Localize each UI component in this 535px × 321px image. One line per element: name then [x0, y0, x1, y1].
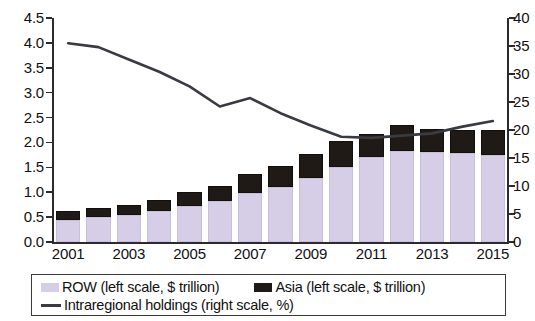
right-axis-tick-label: 5	[513, 206, 535, 221]
left-axis-tick	[46, 191, 52, 193]
legend-swatch-line-icon	[41, 304, 61, 307]
left-axis-tick-label: 2.0	[0, 134, 44, 149]
x-axis-tick-label: 2005	[160, 246, 220, 262]
left-axis-tick	[46, 17, 52, 19]
x-axis-tick-label: 2009	[281, 246, 341, 262]
legend-entry-row: ROW (left scale, $ trillion)	[41, 280, 219, 295]
x-axis-tick-label: 2001	[38, 246, 98, 262]
left-axis-tick-label: 4.0	[0, 35, 44, 50]
legend-swatch-asia-icon	[254, 283, 272, 292]
chart-figure: 0.00.51.01.52.02.53.03.54.04.5 051015202…	[0, 0, 535, 321]
x-axis-line	[52, 242, 509, 244]
left-axis-tick-label: 1.0	[0, 184, 44, 199]
left-axis-tick	[46, 241, 52, 243]
intraregional-holdings-line	[53, 18, 508, 242]
left-axis-tick	[46, 92, 52, 94]
legend-label-intraregional: Intraregional holdings (right scale, %)	[64, 298, 294, 313]
right-axis-tick-label: 25	[513, 94, 535, 109]
legend-swatch-row-icon	[41, 283, 59, 292]
right-axis-tick-label: 30	[513, 66, 535, 81]
legend-label-row: ROW (left scale, $ trillion)	[62, 280, 219, 295]
left-axis-tick-label: 0.5	[0, 209, 44, 224]
right-axis-tick-label: 20	[513, 122, 535, 137]
x-axis-tick-label: 2003	[99, 246, 159, 262]
left-axis-tick-label: 4.5	[0, 10, 44, 25]
legend-entry-asia: Asia (left scale, $ trillion)	[254, 280, 425, 295]
left-axis-tick-label: 3.0	[0, 85, 44, 100]
right-axis-tick-label: 10	[513, 178, 535, 193]
x-axis-tick-label: 2013	[402, 246, 462, 262]
left-axis-tick-label: 3.5	[0, 60, 44, 75]
plot-area	[53, 18, 508, 242]
legend-row-bottom: Intraregional holdings (right scale, %)	[32, 296, 505, 315]
left-axis-tick	[46, 142, 52, 144]
right-axis-tick-label: 35	[513, 38, 535, 53]
legend-row-top: ROW (left scale, $ trillion) Asia (left …	[32, 278, 505, 297]
left-axis-tick	[46, 42, 52, 44]
left-axis-tick-label: 1.5	[0, 159, 44, 174]
left-axis-tick	[46, 167, 52, 169]
left-axis-tick	[46, 67, 52, 69]
x-axis-tick-label: 2011	[342, 246, 402, 262]
right-axis-tick-label: 40	[513, 10, 535, 25]
left-axis-tick	[46, 117, 52, 119]
x-axis-tick-label: 2015	[463, 246, 523, 262]
left-axis-tick-label: 2.5	[0, 110, 44, 125]
legend-entry-intraregional: Intraregional holdings (right scale, %)	[41, 298, 294, 313]
right-axis-tick-label: 15	[513, 150, 535, 165]
chart-legend: ROW (left scale, $ trillion) Asia (left …	[31, 274, 506, 316]
x-axis-tick-label: 2007	[220, 246, 280, 262]
legend-label-asia: Asia (left scale, $ trillion)	[275, 280, 425, 295]
left-axis-tick	[46, 216, 52, 218]
